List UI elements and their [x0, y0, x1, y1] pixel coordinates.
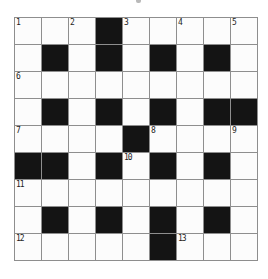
crossword-cell[interactable]: 4 [177, 18, 203, 44]
cell-number: 1 [16, 18, 20, 27]
crossword-cell-black [150, 153, 176, 179]
cell-number: 12 [16, 234, 24, 243]
crossword-cell[interactable] [15, 207, 41, 233]
crossword-grid: 12345678910111213 [14, 17, 258, 261]
crossword-cell[interactable]: 13 [177, 234, 203, 260]
crossword-cell[interactable] [177, 99, 203, 125]
crossword-cell[interactable] [42, 18, 68, 44]
crossword-cell[interactable] [204, 234, 230, 260]
crossword-cell[interactable] [231, 234, 257, 260]
cell-number: 10 [124, 153, 132, 162]
cell-number: 5 [232, 18, 236, 27]
crossword-cell[interactable] [177, 180, 203, 206]
crossword-cell[interactable] [69, 72, 95, 98]
crossword-cell[interactable] [123, 234, 149, 260]
crossword-cell-black [204, 207, 230, 233]
crossword-cell[interactable] [69, 180, 95, 206]
cell-number: 9 [232, 126, 236, 135]
crossword-cell[interactable] [204, 180, 230, 206]
crossword-cell[interactable]: 1 [15, 18, 41, 44]
crossword-cell[interactable] [42, 72, 68, 98]
crossword-cell[interactable] [15, 45, 41, 71]
crossword-cell[interactable] [69, 234, 95, 260]
crossword-cell-black [42, 153, 68, 179]
crossword-cell[interactable] [69, 99, 95, 125]
crossword-cell-black [96, 99, 122, 125]
crossword-cell[interactable] [150, 180, 176, 206]
crossword-cell[interactable] [42, 180, 68, 206]
cell-number: 11 [16, 180, 24, 189]
cell-number: 13 [178, 234, 186, 243]
crossword-cell[interactable] [177, 126, 203, 152]
cell-number: 2 [70, 18, 74, 27]
crossword-cell[interactable] [231, 153, 257, 179]
crossword-cell-black [204, 153, 230, 179]
crossword-cell-black [204, 45, 230, 71]
crossword-cell[interactable] [42, 234, 68, 260]
crossword-cell[interactable] [96, 126, 122, 152]
crossword-cell[interactable] [123, 180, 149, 206]
crossword-cell[interactable] [96, 234, 122, 260]
crossword-cell[interactable] [231, 207, 257, 233]
crossword-cell[interactable] [177, 207, 203, 233]
crossword-cell-black [42, 45, 68, 71]
crossword-cell[interactable] [96, 72, 122, 98]
cell-number: 4 [178, 18, 182, 27]
crossword-cell[interactable]: 8 [150, 126, 176, 152]
crossword-cell[interactable]: 7 [15, 126, 41, 152]
crossword-cell[interactable] [204, 72, 230, 98]
cropped-text-artifact [136, 0, 141, 3]
crossword-cell[interactable] [150, 18, 176, 44]
crossword-cell[interactable]: 2 [69, 18, 95, 44]
crossword-cell[interactable] [231, 180, 257, 206]
crossword-cell[interactable]: 6 [15, 72, 41, 98]
crossword-cell[interactable]: 5 [231, 18, 257, 44]
crossword-cell[interactable] [123, 207, 149, 233]
crossword-cell-black [231, 99, 257, 125]
crossword-cell-black [15, 153, 41, 179]
crossword-cell-black [96, 207, 122, 233]
crossword-cell[interactable]: 3 [123, 18, 149, 44]
crossword-cell-black [42, 99, 68, 125]
crossword-cell[interactable]: 10 [123, 153, 149, 179]
crossword-cell-black [150, 234, 176, 260]
crossword-cell[interactable] [123, 99, 149, 125]
crossword-cell[interactable] [96, 180, 122, 206]
crossword-cell[interactable]: 9 [231, 126, 257, 152]
cell-number: 7 [16, 126, 20, 135]
crossword-cell-black [96, 153, 122, 179]
crossword-cell[interactable]: 11 [15, 180, 41, 206]
crossword-cell[interactable] [177, 45, 203, 71]
crossword-cell[interactable] [42, 126, 68, 152]
crossword-cell-black [150, 207, 176, 233]
crossword-cell[interactable] [123, 45, 149, 71]
crossword-cell-black [150, 45, 176, 71]
crossword-cell[interactable] [204, 18, 230, 44]
crossword-cell[interactable] [69, 153, 95, 179]
crossword-cell[interactable] [69, 126, 95, 152]
crossword-cell-black [42, 207, 68, 233]
crossword-cell[interactable] [15, 99, 41, 125]
crossword-cell-black [96, 18, 122, 44]
crossword-cell[interactable] [231, 72, 257, 98]
crossword-cell[interactable] [69, 207, 95, 233]
crossword-cell[interactable] [177, 72, 203, 98]
cell-number: 8 [151, 126, 155, 135]
crossword-cell[interactable] [204, 126, 230, 152]
crossword-cell[interactable]: 12 [15, 234, 41, 260]
crossword-cell[interactable] [231, 45, 257, 71]
crossword-cell-black [204, 99, 230, 125]
crossword-cell[interactable] [150, 72, 176, 98]
crossword-cell[interactable] [123, 72, 149, 98]
cell-number: 6 [16, 72, 20, 81]
crossword-cell-black [150, 99, 176, 125]
crossword-cell[interactable] [177, 153, 203, 179]
crossword-cell-black [123, 126, 149, 152]
crossword-cell-black [96, 45, 122, 71]
cell-number: 3 [124, 18, 128, 27]
crossword-cell[interactable] [69, 45, 95, 71]
